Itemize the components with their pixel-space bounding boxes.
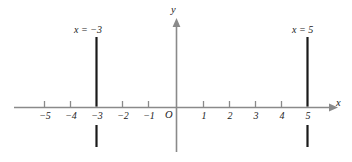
- line-label-x-5: x = 5: [292, 24, 313, 35]
- tick-label-minus4: −4: [60, 110, 82, 121]
- y-axis-arrowhead: [173, 18, 181, 27]
- origin-label: O: [165, 109, 173, 120]
- coordinate-plane-figure: x y O x = −3 x = 5 −5 −4 −3 −2 −1 1 2 3 …: [0, 0, 352, 162]
- line-label-x-minus-3: x = −3: [74, 24, 102, 35]
- tick-label-minus3: −3: [86, 110, 108, 121]
- tick-label-minus1: −1: [138, 110, 160, 121]
- tick-label-5: 5: [297, 110, 319, 121]
- tick-label-minus5: −5: [34, 110, 56, 121]
- y-axis-label: y: [171, 4, 176, 15]
- tick-label-1: 1: [193, 110, 215, 121]
- tick-label-2: 2: [219, 110, 241, 121]
- y-axis: [173, 18, 181, 152]
- tick-label-4: 4: [271, 110, 293, 121]
- tick-label-3: 3: [245, 110, 267, 121]
- x-axis-label: x: [336, 97, 341, 108]
- x-axis-ticks: [45, 101, 282, 108]
- tick-label-minus2: −2: [112, 110, 134, 121]
